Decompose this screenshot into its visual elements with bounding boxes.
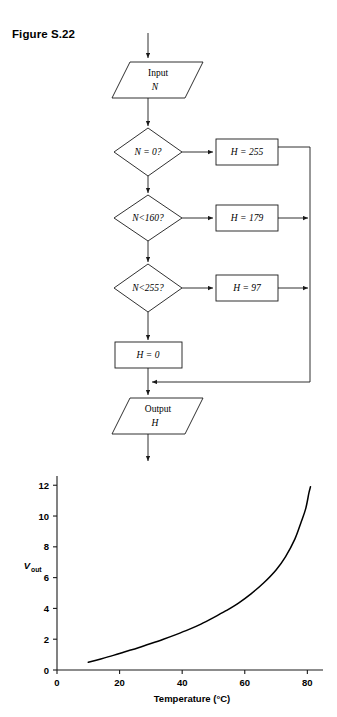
chart-y-tick-label: 12 <box>38 480 49 491</box>
node-output-label-1: Output <box>145 404 172 414</box>
node-h-97-label: H = 97 <box>232 283 262 293</box>
chart-y-axis-title-subscript: out <box>31 566 42 573</box>
node-input-label-2: N <box>151 82 159 92</box>
node-decision-n-equals-0-label: N = 0? <box>134 147 162 157</box>
chart-y-tick-label: 4 <box>44 603 50 614</box>
node-h-255-label: H = 255 <box>230 147 264 157</box>
chart-y-tick-label: 2 <box>44 634 49 645</box>
figure-page: Figure S.22 Input N N = 0? H = <box>0 0 337 717</box>
chart-data-curve <box>88 487 310 663</box>
chart-y-ticks: 024681012 <box>38 480 57 676</box>
cropped-footer-artifact <box>0 709 337 717</box>
chart-y-tick-label: 6 <box>44 572 49 583</box>
node-output-label-2: H <box>151 418 160 428</box>
chart-x-tick-label: 0 <box>54 677 59 688</box>
chart-y-tick-label: 10 <box>38 511 49 522</box>
chart-y-tick-label: 8 <box>44 541 49 552</box>
chart-x-tick-label: 60 <box>239 677 250 688</box>
chart-y-axis-title: V <box>24 560 31 571</box>
chart-x-tick-label: 80 <box>302 677 313 688</box>
node-input-label-1: Input <box>148 68 168 78</box>
node-h-0-label: H = 0 <box>136 350 160 360</box>
node-h-179-label: H = 179 <box>230 213 264 223</box>
chart-x-axis-title: Temperature (°C) <box>154 693 230 704</box>
chart-x-ticks: 020406080 <box>54 670 312 688</box>
node-decision-n-lt-160-label: N<160? <box>131 213 164 223</box>
chart-y-tick-label: 0 <box>44 665 49 676</box>
flowchart-diagram: Input N N = 0? H = 255 N<160? <box>0 0 337 440</box>
chart-x-tick-label: 20 <box>114 677 125 688</box>
vout-temperature-chart: 024681012 020406080 V out Temperature (°… <box>0 440 337 717</box>
chart-x-tick-label: 40 <box>177 677 188 688</box>
node-decision-n-lt-255-label: N<255? <box>131 283 164 293</box>
